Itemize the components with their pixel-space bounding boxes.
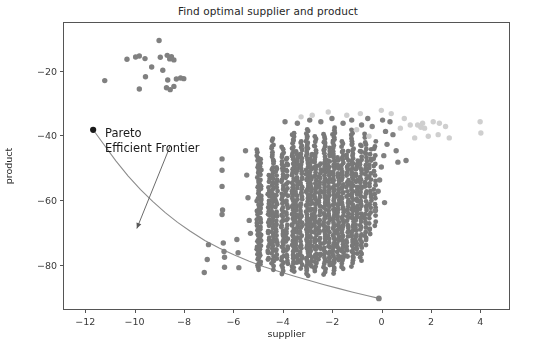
x-tick-mark <box>184 310 185 313</box>
x-tick-label: −10 <box>125 316 145 327</box>
annotation-line-2: Efficient Frontier <box>105 141 200 156</box>
chart-title: Find optimal supplier and product <box>0 5 536 17</box>
x-tick-mark <box>85 310 86 313</box>
y-tick-label: −60 <box>29 194 57 205</box>
y-tick-label: −80 <box>29 259 57 270</box>
x-tick-label: −2 <box>325 316 339 327</box>
chart-figure: Find optimal supplier and product −12−10… <box>0 0 536 349</box>
x-tick-mark <box>480 310 481 313</box>
x-tick-mark <box>382 310 383 313</box>
x-tick-label: 4 <box>477 316 483 327</box>
x-axis-label: supplier <box>63 328 510 339</box>
x-tick-mark <box>431 310 432 313</box>
x-tick-mark <box>233 310 234 313</box>
x-tick-mark <box>283 310 284 313</box>
x-tick-label: 0 <box>379 316 385 327</box>
annotation-line-1: Pareto <box>105 126 200 141</box>
x-tick-label: −6 <box>226 316 240 327</box>
y-tick-mark <box>60 135 63 136</box>
x-tick-label: −12 <box>75 316 95 327</box>
x-tick-label: −8 <box>177 316 191 327</box>
plot-area <box>63 22 510 310</box>
x-tick-label: −4 <box>276 316 290 327</box>
y-tick-mark <box>60 200 63 201</box>
y-tick-label: −40 <box>29 130 57 141</box>
y-axis-label: product <box>3 148 14 185</box>
x-tick-mark <box>332 310 333 313</box>
pareto-frontier-annotation: ParetoEfficient Frontier <box>105 126 200 156</box>
y-tick-label: −20 <box>29 65 57 76</box>
x-tick-label: 2 <box>428 316 434 327</box>
scatter-plot-canvas <box>64 23 510 310</box>
y-tick-mark <box>60 71 63 72</box>
x-tick-mark <box>135 310 136 313</box>
y-tick-mark <box>60 265 63 266</box>
